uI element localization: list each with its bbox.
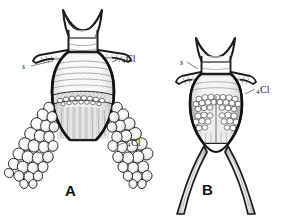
figure-a-label-cl-upper-text: Cl [126,53,135,64]
figure-a-letter: A [65,183,76,198]
figure-a-body [52,52,114,140]
illustration-canvas [0,0,290,216]
figure-a-label-s: s [22,63,25,71]
figure-a-label-cl-lower: 4Cl [127,138,140,149]
figure-b-label-s: s [180,59,183,67]
figure-b-label-cl: 4Cl [256,85,269,96]
figure-plate: s 4Cl 4Cl s 4Cl A B [0,0,290,216]
figure-b-letter: B [202,182,213,197]
figure-a-label-cl-lower-text: Cl [131,137,140,148]
figure-a-label-cl-upper: 4Cl [122,54,135,65]
figure-b-label-cl-text: Cl [260,84,269,95]
